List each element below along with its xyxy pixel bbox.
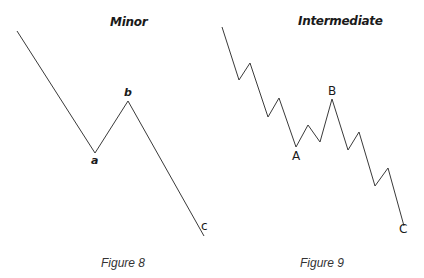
- figure8-label-a: a: [91, 154, 98, 167]
- figure8-label-c: c: [201, 219, 208, 233]
- figure8-title: Minor: [110, 15, 147, 29]
- figure9-label-A: A: [292, 149, 300, 163]
- figure9-wave-line: [222, 27, 404, 226]
- figure8-wave-line: [17, 31, 204, 236]
- figure8-caption: Figure 8: [101, 256, 145, 270]
- figure9-label-B: B: [328, 84, 336, 98]
- figure9-title: Intermediate: [298, 14, 383, 28]
- figure9-label-C: C: [399, 222, 407, 236]
- figure8-label-b: b: [124, 86, 132, 99]
- wave-diagrams: [0, 0, 424, 278]
- figure9-caption: Figure 9: [300, 256, 344, 270]
